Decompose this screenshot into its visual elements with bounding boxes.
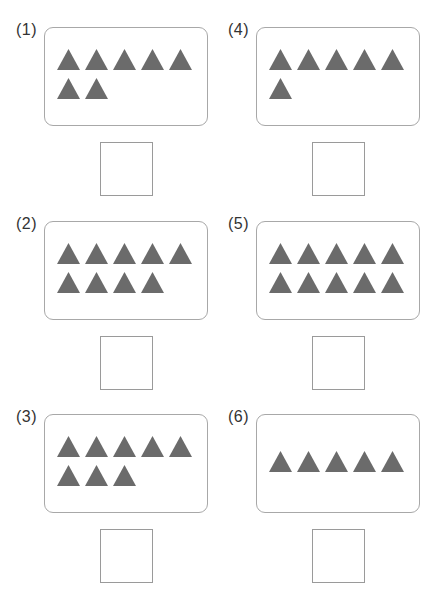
triangle-card (256, 27, 420, 126)
triangle-icon (353, 451, 376, 472)
answer-box[interactable] (100, 529, 153, 583)
triangle-icon (141, 272, 164, 293)
problem-1: (1) (16, 21, 226, 201)
triangle-icon (269, 49, 292, 70)
answer-box[interactable] (100, 142, 153, 196)
triangle-icon (169, 436, 192, 457)
problem-label: (6) (228, 408, 249, 426)
triangle-group (57, 436, 202, 486)
triangle-icon (269, 451, 292, 472)
triangle-icon (141, 49, 164, 70)
triangle-icon (297, 49, 320, 70)
triangle-icon (85, 49, 108, 70)
triangle-icon (113, 436, 136, 457)
triangle-icon (353, 272, 376, 293)
problem-6: (6) (228, 408, 437, 588)
triangle-icon (325, 451, 348, 472)
problem-2: (2) (16, 215, 226, 395)
triangle-card (44, 414, 208, 513)
triangle-icon (113, 272, 136, 293)
triangle-icon (169, 49, 192, 70)
triangle-icon (57, 78, 80, 99)
answer-box[interactable] (312, 142, 365, 196)
problem-5: (5) (228, 215, 437, 395)
triangle-icon (325, 272, 348, 293)
triangle-icon (85, 272, 108, 293)
triangle-icon (57, 465, 80, 486)
problem-label: (5) (228, 215, 249, 233)
triangle-group (57, 49, 202, 99)
triangle-icon (85, 436, 108, 457)
triangle-icon (297, 272, 320, 293)
triangle-icon (57, 243, 80, 264)
triangle-group (57, 243, 202, 293)
triangle-card (256, 221, 420, 320)
triangle-icon (169, 243, 192, 264)
triangle-card (256, 414, 420, 513)
counting-worksheet: (1) (2) (3) (4) (5) (6) (0, 0, 437, 592)
problem-label: (2) (16, 215, 37, 233)
triangle-icon (381, 272, 404, 293)
triangle-icon (113, 465, 136, 486)
triangle-icon (297, 451, 320, 472)
triangle-icon (269, 78, 292, 99)
triangle-icon (353, 49, 376, 70)
problem-label: (3) (16, 408, 37, 426)
triangle-icon (269, 243, 292, 264)
triangle-icon (325, 243, 348, 264)
triangle-icon (57, 436, 80, 457)
triangle-card (44, 221, 208, 320)
answer-box[interactable] (100, 336, 153, 390)
triangle-icon (381, 49, 404, 70)
triangle-icon (85, 465, 108, 486)
answer-box[interactable] (312, 336, 365, 390)
triangle-icon (113, 243, 136, 264)
triangle-icon (141, 436, 164, 457)
triangle-icon (85, 78, 108, 99)
triangle-icon (141, 243, 164, 264)
triangle-group (269, 243, 414, 293)
triangle-icon (381, 243, 404, 264)
triangle-icon (113, 49, 136, 70)
triangle-group (269, 49, 414, 99)
triangle-icon (57, 272, 80, 293)
triangle-icon (85, 243, 108, 264)
triangle-icon (269, 272, 292, 293)
problem-label: (4) (228, 21, 249, 39)
problem-label: (1) (16, 21, 37, 39)
triangle-card (44, 27, 208, 126)
triangle-icon (381, 451, 404, 472)
triangle-icon (57, 49, 80, 70)
problem-4: (4) (228, 21, 437, 201)
triangle-icon (353, 243, 376, 264)
problem-3: (3) (16, 408, 226, 588)
triangle-group (269, 451, 414, 472)
triangle-icon (325, 49, 348, 70)
answer-box[interactable] (312, 529, 365, 583)
triangle-icon (297, 243, 320, 264)
